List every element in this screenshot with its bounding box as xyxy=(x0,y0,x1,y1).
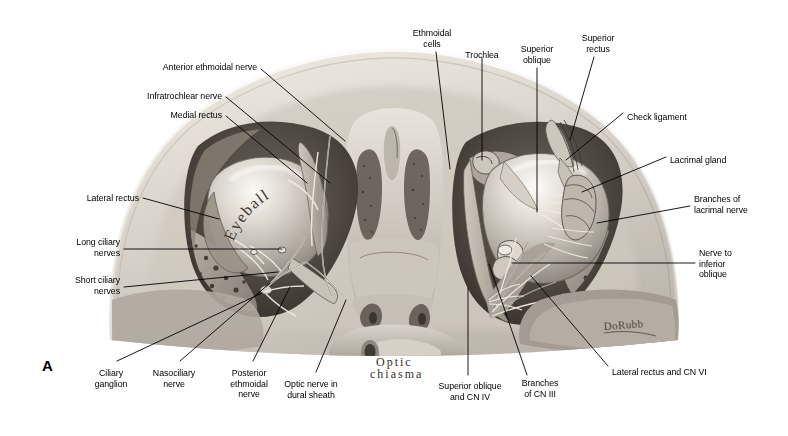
label-nerve-to-inferior-oblique: Nerve to inferior oblique xyxy=(699,248,732,280)
label-check-ligament: Check ligament xyxy=(627,112,687,123)
leader-ciliary-ganglion xyxy=(117,293,262,361)
leader-lateral-rectus xyxy=(143,198,219,219)
leader-short-ciliary-nerves xyxy=(124,272,278,287)
label-short-ciliary-nerves: Short ciliary nerves xyxy=(7,275,120,296)
leader-branches-of-cn-iii xyxy=(489,264,527,375)
leader-superior-rectus xyxy=(570,57,594,140)
label-medial-rectus: Medial rectus xyxy=(13,110,222,121)
leader-lateral-rectus-and-cn-vi xyxy=(531,276,608,366)
panel-letter-a: A xyxy=(42,357,53,374)
leader-optic-nerve-in-dural-sheath xyxy=(316,300,346,372)
leader-posterior-ethmoidal-nerve xyxy=(253,287,290,361)
label-lateral-rectus-and-cn-vi: Lateral rectus and CN VI xyxy=(612,367,707,378)
label-ciliary-ganglion: Ciliary ganglion xyxy=(36,368,186,389)
leader-nasociliary-nerve xyxy=(180,283,270,361)
leader-medial-rectus xyxy=(226,116,307,183)
anatomy-figure-plate: Eyeball Optic chiasma DoRubb Anterior et… xyxy=(0,0,788,436)
label-branches-of-lacrimal-nerve: Branches of lacrimal nerve xyxy=(694,194,748,215)
label-anterior-ethmoidal-nerve: Anterior ethmoidal nerve xyxy=(15,62,257,73)
label-long-ciliary-nerves: Long ciliary nerves xyxy=(7,237,120,258)
label-lateral-rectus: Lateral rectus xyxy=(8,193,139,204)
leader-branches-of-lacrimal-nerve xyxy=(597,206,690,223)
label-infratrochlear-nerve: Infratrochlear nerve xyxy=(13,91,222,102)
leader-lacrimal-gland xyxy=(582,157,666,192)
label-lacrimal-gland: Lacrimal gland xyxy=(670,155,726,166)
label-superior-oblique-and-cn-iv: Superior oblique and CN IV xyxy=(395,381,545,402)
leader-check-ligament xyxy=(566,113,623,160)
leader-infratrochlear-nerve xyxy=(226,97,330,183)
leader-ethmoidal-cells xyxy=(436,52,450,169)
leader-anterior-ethmoidal-nerve xyxy=(261,69,345,141)
label-superior-rectus: Superior rectus xyxy=(523,33,673,54)
